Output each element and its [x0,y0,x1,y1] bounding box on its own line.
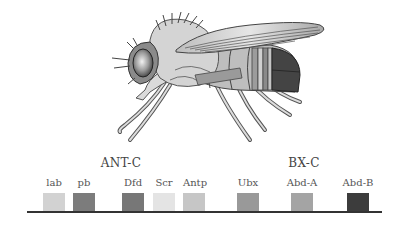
gene-box-abd-a [291,193,313,212]
gene-label-abd-a: Abd-A [287,177,318,188]
gene-label-antp: Antp [183,177,207,188]
gene-box-lab [43,193,65,212]
abdominal-stripes [252,48,272,90]
complex-label-ant-c: ANT-C [101,156,141,170]
chromosome-line [27,211,382,213]
gene-label-scr: Scr [155,177,172,188]
gene-box-pb [73,193,95,212]
gene-box-abd-b [347,193,369,212]
gene-label-lab: lab [46,177,62,188]
gene-box-antp [183,193,205,212]
fly-illustration [0,0,401,150]
gene-label-ubx: Ubx [238,177,258,188]
gene-box-dfd [122,193,144,212]
gene-label-pb: pb [78,177,91,188]
gene-label-abd-b: Abd-B [343,177,374,188]
compound-eye [133,49,153,77]
gene-label-dfd: Dfd [124,177,142,188]
gene-box-scr [153,193,175,212]
complex-label-bx-c: BX-C [288,156,319,170]
gene-box-ubx [237,193,259,212]
